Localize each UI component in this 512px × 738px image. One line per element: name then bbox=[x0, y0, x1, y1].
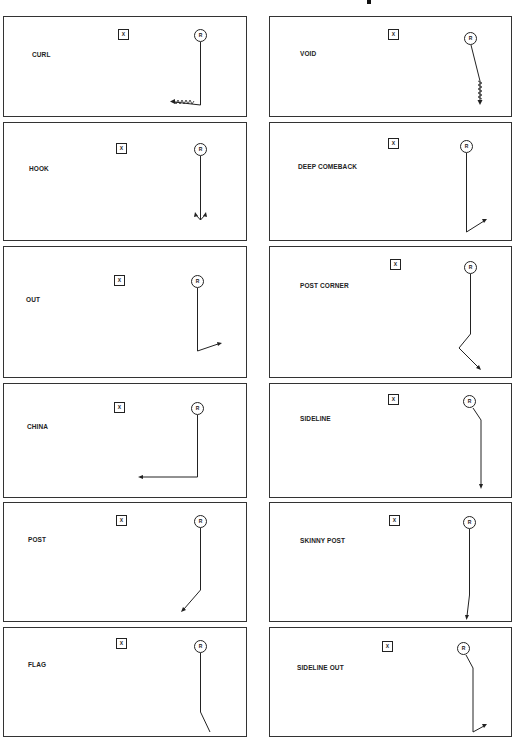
route-panel-void: VOID X R bbox=[269, 16, 512, 117]
route-path-icon bbox=[270, 503, 512, 623]
route-path-icon bbox=[270, 247, 512, 379]
route-panel-skinny-post: SKINNY POST X R bbox=[269, 502, 512, 622]
title-fragment bbox=[367, 0, 371, 4]
route-panel-curl: CURL X R bbox=[3, 16, 247, 117]
route-panel-out: OUT X R bbox=[3, 246, 247, 378]
route-panel-sideline: SIDELINE X R bbox=[269, 383, 512, 498]
route-panel-sideline-out: SIDELINE OUT X R bbox=[269, 627, 512, 737]
route-panel-flag: FLAG X R bbox=[3, 627, 247, 737]
route-panel-hook: HOOK X R bbox=[3, 122, 247, 241]
route-path-icon bbox=[270, 628, 512, 738]
route-path-icon bbox=[4, 247, 248, 379]
route-panel-deep-comeback: DEEP COMEBACK X R bbox=[269, 122, 512, 241]
route-panel-post-corner: POST CORNER X R bbox=[269, 246, 512, 378]
route-path-icon bbox=[4, 503, 248, 623]
route-panel-china: CHINA X R bbox=[3, 383, 247, 498]
route-path-icon bbox=[4, 628, 248, 738]
route-path-icon bbox=[4, 384, 248, 499]
route-panel-post: POST X R bbox=[3, 502, 247, 622]
route-path-icon bbox=[4, 123, 248, 242]
route-path-icon bbox=[4, 17, 248, 118]
route-path-icon bbox=[270, 384, 512, 499]
route-path-icon bbox=[270, 123, 512, 242]
route-path-icon bbox=[270, 17, 512, 118]
